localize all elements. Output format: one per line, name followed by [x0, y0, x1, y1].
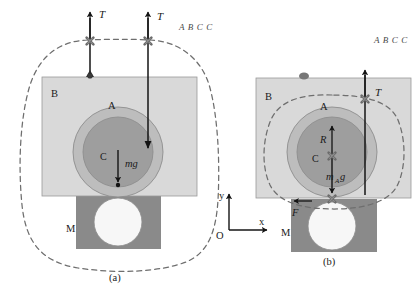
- weight-label-a: mg: [125, 158, 138, 169]
- friction-label-b: F: [291, 207, 299, 218]
- weight-tail-b: g: [340, 171, 345, 182]
- tension-label-left-a: T: [99, 8, 106, 20]
- center-label-b: C: [312, 153, 319, 164]
- sphere-a-label-a: A: [108, 100, 116, 111]
- physics-diagram: T T B A C mg M A B C C (a) y x O: [0, 0, 415, 293]
- center-label-a: C: [100, 151, 107, 162]
- block-b-label-a: B: [51, 88, 58, 99]
- panel-caption-a: (a): [109, 272, 121, 284]
- block-b-label-b: B: [265, 91, 272, 102]
- radius-label-b: R: [319, 134, 327, 145]
- tension-label-right-a: T: [157, 10, 164, 22]
- weight-label-b: m: [326, 171, 334, 182]
- contact-dot-b: [299, 72, 309, 79]
- annotation-a: A B C C: [178, 22, 213, 32]
- axis-origin-label: O: [216, 230, 224, 241]
- axis-y-label: y: [219, 190, 225, 201]
- block-m-label-a: M: [66, 223, 76, 234]
- axis-x-label: x: [259, 216, 265, 227]
- sphere-a-label-b: A: [320, 101, 328, 112]
- figure-canvas: T T B A C mg M A B C C (a) y x O: [0, 0, 415, 293]
- rope-anchor-dot-a: [87, 73, 92, 78]
- roller-a: [94, 198, 142, 246]
- panel-caption-b: (b): [323, 256, 336, 268]
- tension-label-right-b: T: [375, 86, 382, 98]
- annotation-b: A B C C: [373, 35, 408, 45]
- weight-origin-dot-a: [116, 183, 120, 187]
- block-m-label-b: M: [281, 227, 291, 238]
